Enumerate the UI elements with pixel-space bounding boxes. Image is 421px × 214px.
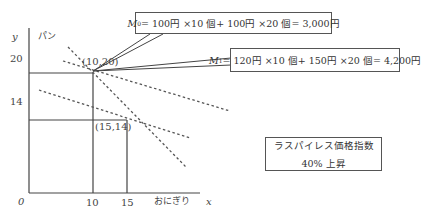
laspeyres-index-box: ラスパイレス価格指数 40% 上昇 <box>265 137 382 171</box>
x-axis-name: おにぎり <box>154 197 190 206</box>
y-axis-letter: y <box>12 32 18 42</box>
x-tick-10: 10 <box>86 198 99 208</box>
callout-m1: M1 = 120円 ×10 個+ 150円 ×20 個= 4,200円 <box>230 48 400 72</box>
m1-symbol: M <box>209 55 219 66</box>
point-label-15-14: (15,14) <box>95 122 131 132</box>
y-tick-20: 20 <box>10 54 23 64</box>
origin-label: 0 <box>18 197 24 207</box>
m1-expression: = 120円 ×10 個+ 150円 ×20 個= 4,200円 <box>223 53 421 67</box>
y-axis-name: パン <box>38 32 56 41</box>
laspeyres-title: ラスパイレス価格指数 <box>274 138 374 152</box>
m0-expression: = 100円 ×10 個+ 100円 ×20 個= 3,000円 <box>141 16 340 30</box>
point-label-10-20: (10,20) <box>82 57 118 67</box>
x-axis-letter: x <box>206 197 212 207</box>
x-tick-15: 15 <box>121 198 134 208</box>
laspeyres-value: 40% 上昇 <box>301 156 345 170</box>
callout-m0: M0 = 100円 ×10 個+ 100円 ×20 個= 3,000円 <box>135 12 332 34</box>
m0-symbol: M <box>127 18 137 29</box>
y-tick-14: 14 <box>10 97 23 107</box>
